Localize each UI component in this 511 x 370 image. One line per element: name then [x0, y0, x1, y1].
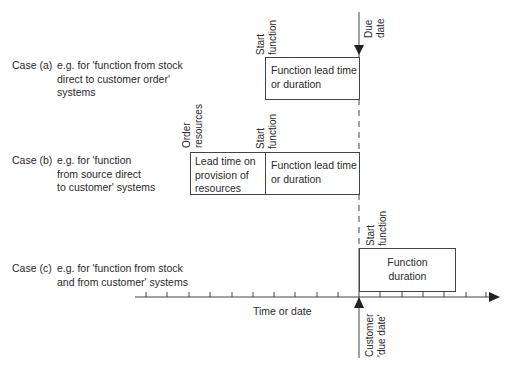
case-c-description: e.g. for 'function from stock and from c…	[57, 262, 188, 289]
case-b-order-resources-label: Orderresources	[181, 104, 204, 148]
case-a-name: Case (a)	[12, 59, 52, 71]
case-a-function-box: Function lead time or duration	[265, 57, 360, 100]
case-b-description: e.g. for 'function from source direct to…	[57, 154, 155, 195]
axis-ticks	[146, 292, 486, 297]
case-a-start-function-label: Startfunction	[255, 20, 278, 55]
case-b-start-function-label: Startfunction	[255, 114, 278, 149]
due-date-label: Duedate	[363, 19, 386, 38]
due-date-arrow-icon	[354, 45, 364, 55]
time-axis-arrow-icon	[489, 292, 500, 302]
customer-due-date-label: Customer'due date'	[364, 314, 387, 357]
customer-due-date-arrow-icon	[354, 297, 364, 308]
case-c-function-box: Function duration	[359, 248, 456, 292]
case-a-description: e.g. for 'function from stock direct to …	[57, 59, 183, 100]
case-c-start-function-label: Startfunction	[365, 211, 388, 246]
case-c-name: Case (c)	[12, 262, 52, 274]
case-b-resources-box: Lead time on provision of resources	[190, 152, 266, 195]
case-b-name: Case (b)	[12, 154, 52, 166]
axis-label: Time or date	[253, 305, 312, 318]
case-b-function-box: Function lead time or duration	[265, 152, 360, 195]
